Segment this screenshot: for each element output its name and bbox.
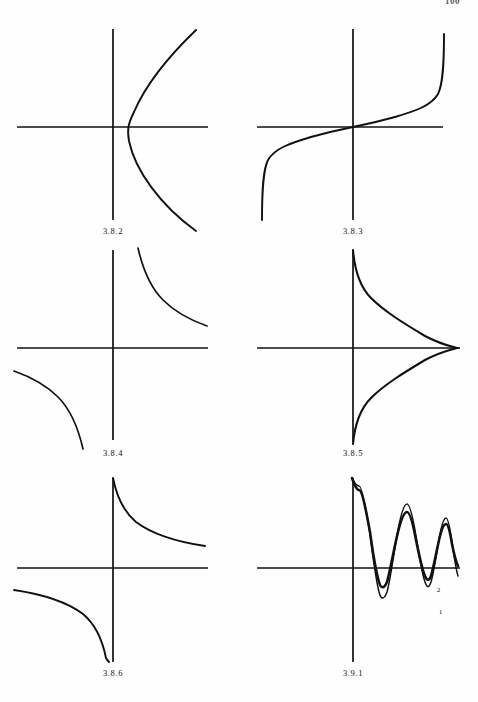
axes-3-8-4 bbox=[17, 250, 208, 440]
curve-2-label: 2 bbox=[437, 586, 440, 593]
figure-3-8-3-plot bbox=[239, 0, 478, 240]
curve-hyperbola-upper bbox=[138, 248, 207, 326]
figure-3-9-1-caption: 3.9.1 bbox=[239, 668, 467, 678]
curve-bell bbox=[353, 250, 457, 444]
figure-3-8-4-caption: 3.8.4 bbox=[0, 448, 226, 458]
curve-2 bbox=[352, 478, 458, 587]
figure-3-8-6: 3.8.6 bbox=[0, 472, 239, 702]
figure-3-8-5-plot bbox=[239, 240, 478, 472]
figure-3-8-4-plot bbox=[0, 240, 239, 472]
figure-3-8-6-caption: 3.8.6 bbox=[0, 668, 226, 678]
curve-branch-upper bbox=[113, 478, 205, 546]
curve-branch-lower bbox=[14, 590, 109, 662]
figure-3-9-1: 1 2 3.9.1 bbox=[239, 472, 478, 702]
figure-3-8-3: 3.8.3 bbox=[239, 0, 478, 240]
axes-3-8-2 bbox=[17, 29, 208, 220]
axes-3-8-6 bbox=[17, 478, 208, 662]
curve-1 bbox=[352, 478, 458, 598]
axes-3-9-1 bbox=[257, 478, 460, 662]
curve-hyperbola-lower bbox=[14, 371, 83, 449]
figure-3-8-3-caption: 3.8.3 bbox=[239, 226, 467, 236]
curve-parabola bbox=[128, 30, 196, 231]
curve-1-label: 1 bbox=[439, 608, 442, 615]
figure-3-8-2: 3.8.2 bbox=[0, 0, 239, 240]
figure-3-8-5: 3.8.5 bbox=[239, 240, 478, 472]
page-sheet: 100 3.8.2 3.8.3 bbox=[0, 0, 478, 702]
figure-3-8-2-plot bbox=[0, 0, 239, 240]
figure-3-8-2-caption: 3.8.2 bbox=[0, 226, 226, 236]
figure-3-8-4: 3.8.4 bbox=[0, 240, 239, 472]
axes-3-8-3 bbox=[257, 29, 443, 220]
figure-3-8-5-caption: 3.8.5 bbox=[239, 448, 467, 458]
